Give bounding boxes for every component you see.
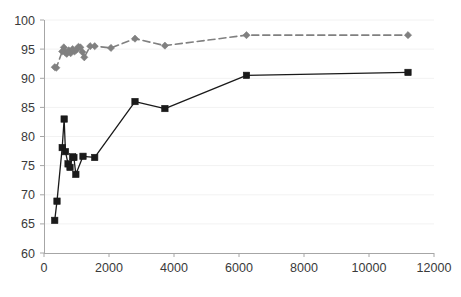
data-point-marker — [67, 164, 73, 170]
y-axis-tick-label: 80 — [21, 130, 35, 144]
chart-container: 1009590858075706560 02000400060008000100… — [0, 0, 461, 297]
data-point-marker — [71, 154, 77, 160]
x-axis-tick-label: 6000 — [225, 261, 253, 275]
data-point-marker — [62, 148, 68, 154]
data-point-marker — [243, 72, 249, 78]
x-axis-tick-label: 8000 — [290, 261, 318, 275]
y-axis-tick-label: 90 — [21, 72, 35, 86]
data-point-marker — [61, 116, 67, 122]
data-point-marker — [54, 198, 60, 204]
x-axis-tick-label: 0 — [41, 261, 48, 275]
y-axis-tick-label: 60 — [21, 247, 35, 261]
x-axis-tick-label: 12000 — [417, 261, 452, 275]
data-point-marker — [132, 98, 138, 104]
data-point-marker — [73, 171, 79, 177]
y-axis-tick-label: 70 — [21, 188, 35, 202]
y-axis-tick-label: 85 — [21, 101, 35, 115]
data-point-marker — [162, 105, 168, 111]
y-axis-tick-label: 100 — [14, 14, 35, 28]
y-axis-tick-label: 75 — [21, 159, 35, 173]
data-point-marker — [80, 153, 86, 159]
chart-background — [0, 0, 461, 297]
x-axis-tick-label: 4000 — [160, 261, 188, 275]
data-point-marker — [52, 217, 58, 223]
y-axis-tick-label: 95 — [21, 43, 35, 57]
x-axis-tick-label: 10000 — [352, 261, 387, 275]
y-axis-tick-label: 65 — [21, 217, 35, 231]
line-chart: 1009590858075706560 02000400060008000100… — [0, 0, 461, 297]
data-point-marker — [92, 154, 98, 160]
data-point-marker — [405, 69, 411, 75]
x-axis-tick-label: 2000 — [95, 261, 123, 275]
